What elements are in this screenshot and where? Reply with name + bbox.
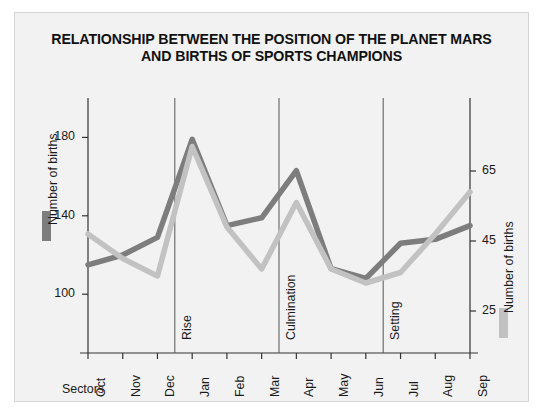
left-axis-tick-label: 180 — [41, 129, 75, 143]
right-axis-tick-label: 25 — [482, 303, 512, 317]
x-axis-tick-label: May — [337, 374, 351, 397]
chart-svg — [15, 13, 530, 403]
left-axis-tick-label: 140 — [41, 208, 75, 222]
x-axis-tick-label: Jan — [198, 377, 212, 397]
left-axis-tick-label: 100 — [41, 286, 75, 300]
right-axis-tick-label: 65 — [482, 163, 512, 177]
x-axis-tick-label: Sep — [476, 375, 490, 397]
plot-area — [15, 13, 530, 403]
right-axis-tick-label: 45 — [482, 233, 512, 247]
annotation-lines — [175, 98, 383, 353]
chart-figure: RELATIONSHIP BETWEEN THE POSITION OF THE… — [14, 12, 529, 402]
x-axis-tick-label: Jun — [372, 377, 386, 397]
x-axis-tick-label: Aug — [441, 375, 455, 397]
annotation-label: Culmination — [284, 275, 298, 340]
x-axis-tick-label: Oct — [94, 378, 108, 397]
x-axis-tick-label: Feb — [233, 376, 247, 397]
x-axis-tick-label: Nov — [129, 375, 143, 397]
x-axis-tick-label: Dec — [163, 375, 177, 397]
x-axis-tick-label: Mar — [268, 376, 282, 397]
x-axis-tick-label: Jul — [407, 381, 421, 397]
annotation-label: Rise — [180, 315, 194, 340]
annotation-label: Setting — [388, 301, 402, 340]
x-axis-tick-label: Apr — [302, 378, 316, 397]
